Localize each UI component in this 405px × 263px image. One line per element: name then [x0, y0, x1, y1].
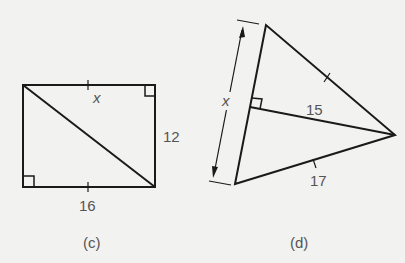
right-angle-mark-bottom-left — [23, 176, 34, 187]
right-angle-mark-top-right — [145, 85, 155, 96]
arrow-head-down-icon — [212, 166, 218, 178]
caption-c: (c) — [83, 234, 101, 251]
label-x-diagonal: x — [92, 89, 101, 106]
arrow-head-up-icon — [239, 26, 245, 38]
caption-d: (d) — [290, 234, 308, 251]
figure-c — [23, 80, 155, 192]
diagonal-x — [23, 85, 155, 187]
label-16: 16 — [79, 197, 96, 214]
figure-d — [209, 20, 395, 185]
dimension-extension-top — [237, 20, 259, 24]
label-17: 17 — [310, 172, 327, 189]
figure-canvas: x 12 16 (c) x 15 17 (d) — [0, 0, 405, 263]
label-x-side: x — [221, 92, 230, 109]
dimension-extension-bottom — [209, 181, 231, 185]
label-12: 12 — [163, 128, 180, 145]
label-15: 15 — [306, 101, 323, 118]
